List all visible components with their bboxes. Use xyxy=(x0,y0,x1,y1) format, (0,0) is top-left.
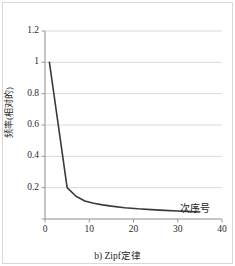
y-axis-title: 频率(相对的) xyxy=(5,80,14,146)
y-tick-label: 0.6 xyxy=(13,120,39,130)
y-tick-label: 0.2 xyxy=(13,183,39,193)
x-tick-label: 0 xyxy=(34,225,56,235)
y-tick-label: 0.8 xyxy=(13,89,39,99)
x-tick-label: 30 xyxy=(167,225,189,235)
y-tick-label: 0.4 xyxy=(13,151,39,161)
figure-container: 0.20.40.60.811.2 010203040 频率(相对的) 次序号 b… xyxy=(0,0,235,266)
chart-plot-region: 0.20.40.60.811.2 010203040 频率(相对的) 次序号 xyxy=(0,0,235,240)
y-tick-label: 1 xyxy=(13,57,39,67)
y-tick-marks xyxy=(42,31,46,219)
x-tick-label: 40 xyxy=(211,225,233,235)
figure-caption: b) Zipf定律 xyxy=(0,248,235,262)
y-tick-label: 1.2 xyxy=(13,26,39,36)
x-tick-marks xyxy=(45,219,222,223)
x-axis-title: 次序号 xyxy=(180,204,210,214)
x-tick-label: 20 xyxy=(123,225,145,235)
x-tick-label: 10 xyxy=(78,225,100,235)
